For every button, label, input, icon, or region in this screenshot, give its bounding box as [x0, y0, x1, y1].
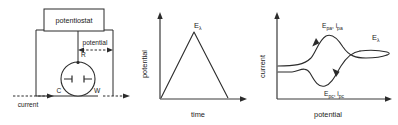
triangular-sweep-curve: [161, 32, 228, 98]
current-arrow-left-icon: [47, 93, 54, 98]
voltammogram-x-axis-arrow-icon: [385, 96, 392, 101]
waveform-svg: potential Eλ time: [136, 0, 256, 125]
anodic-peak-label-i-subscript: pa: [337, 25, 343, 31]
potential-measurement-label: potential: [83, 39, 108, 47]
potential-arrow-right-icon: [107, 48, 113, 53]
cathodic-peak-label: Epc, ipc: [324, 90, 345, 99]
waveform-x-axis-label: time: [191, 110, 205, 119]
current-label: current: [18, 101, 39, 108]
electrode-label-counter: C: [57, 87, 62, 94]
reference-electrode-tip-icon: [76, 61, 79, 64]
circuit-svg: potentiostat R potential C W current: [0, 0, 136, 125]
switching-potential-turnaround: [360, 50, 389, 55]
waveform-apex-label: Eλ: [194, 21, 202, 31]
electrode-label-working: W: [94, 87, 101, 94]
cathodic-peak-label-i-subscript: pc: [339, 93, 345, 99]
panel-potential-waveform: potential Eλ time: [136, 0, 256, 125]
panel-cyclic-voltammogram: current Epa, ipa Epc, ipc: [256, 0, 398, 125]
cyclic-voltammetry-figure: potentiostat R potential C W current: [0, 0, 398, 125]
voltammogram-y-axis-arrow-icon: [274, 12, 279, 19]
waveform-x-axis-arrow-icon: [240, 96, 247, 101]
voltammogram-svg: current Epa, ipa Epc, ipc: [256, 0, 398, 125]
switching-potential-label-subscript: λ: [377, 37, 380, 43]
waveform-y-axis-label: potential: [140, 50, 149, 78]
waveform-apex-label-subscript: λ: [199, 25, 202, 31]
panel-potentiostat-circuit: potentiostat R potential C W current: [0, 0, 136, 125]
cathodic-reverse-scan-curve: [278, 51, 360, 86]
waveform-y-axis-arrow-icon: [157, 12, 162, 19]
anodic-peak-label: Epa, ipa: [322, 22, 343, 31]
switching-potential-label: Eλ: [372, 33, 380, 43]
voltammogram-x-axis-label: potential: [314, 110, 342, 119]
potentiostat-box-label: potentiostat: [55, 16, 92, 25]
voltammogram-y-axis-label: current: [258, 55, 267, 78]
current-arrow-right-icon: [123, 93, 130, 98]
